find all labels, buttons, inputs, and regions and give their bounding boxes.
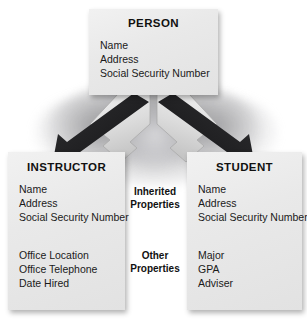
attribute-item: Social Security Number (19, 210, 125, 224)
attribute-item: Address (198, 196, 302, 210)
attribute-item: Office Location (19, 248, 125, 262)
other-properties-label: Other Properties (118, 249, 192, 275)
attribute-item: Social Security Number (100, 66, 218, 80)
attribute-item: Social Security Number (198, 210, 302, 224)
attribute-item: Major (198, 248, 302, 262)
student-inherited-attribute-list: Name Address Social Security Number (187, 173, 302, 224)
person-attribute-list: Name Address Social Security Number (89, 29, 218, 80)
person-class-box[interactable]: PERSON Name Address Social Security Numb… (89, 9, 218, 95)
instructor-class-title: INSTRUCTOR (8, 152, 125, 173)
attribute-item: Adviser (198, 276, 302, 290)
inherited-properties-label-line2: Properties (118, 198, 192, 211)
student-class-title: STUDENT (187, 152, 302, 173)
instructor-inherited-attribute-list: Name Address Social Security Number (8, 173, 125, 224)
student-own-attribute-list: Major GPA Adviser (187, 224, 302, 290)
instructor-own-attribute-list: Office Location Office Telephone Date Hi… (8, 224, 125, 290)
attribute-item: Address (19, 196, 125, 210)
inherited-properties-label-line1: Inherited (118, 185, 192, 198)
diagram-canvas: PERSON Name Address Social Security Numb… (0, 0, 307, 322)
other-properties-label-line2: Properties (118, 262, 192, 275)
background-haze-center (118, 104, 192, 170)
attribute-item: GPA (198, 262, 302, 276)
instructor-class-box[interactable]: INSTRUCTOR Name Address Social Security … (8, 152, 125, 310)
attribute-item: Name (100, 38, 218, 52)
attribute-item: Name (198, 182, 302, 196)
attribute-item: Date Hired (19, 276, 125, 290)
other-properties-label-line1: Other (118, 249, 192, 262)
student-class-box[interactable]: STUDENT Name Address Social Security Num… (187, 152, 302, 310)
attribute-item: Address (100, 52, 218, 66)
person-class-title: PERSON (89, 9, 218, 29)
attribute-item: Office Telephone (19, 262, 125, 276)
inherited-properties-label: Inherited Properties (118, 185, 192, 211)
attribute-item: Name (19, 182, 125, 196)
